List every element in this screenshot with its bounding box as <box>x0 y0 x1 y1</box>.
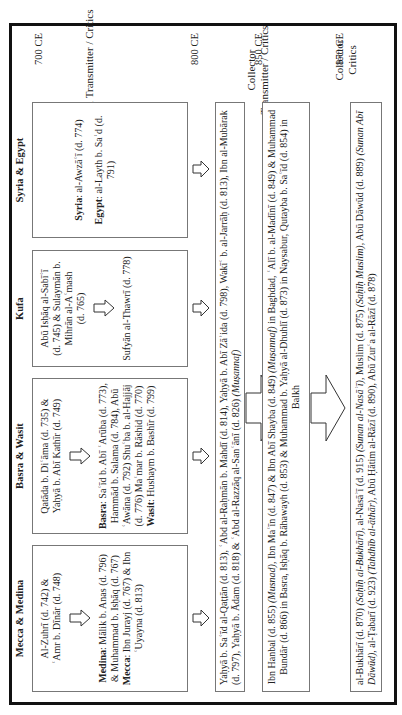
region-header-kufa: Kufa <box>14 250 25 367</box>
column-label-collector-critics: Collector Critics <box>333 25 359 95</box>
collector-transmitters-box-2: Ibn Hanbal (d. 855) (Musnad), Ibn Maʿīn … <box>262 102 310 692</box>
region-header-basra-wasit: Basra & Wasit <box>14 378 25 534</box>
region-header-mecca-medina: Mecca & Medina <box>14 545 25 692</box>
arrow-down-icon <box>69 447 91 465</box>
arrow-down-icon <box>192 609 214 627</box>
region-box-syria-egypt: Syria: al-Awzāʿī (d. 774) Egypt: al-Layt… <box>32 102 188 238</box>
arrow-down-icon <box>192 447 214 465</box>
region-header-syria-egypt: Syria & Egypt <box>14 102 25 238</box>
collector-critics-box: al-Bukhārī (d. 870) (Saḥīḥ al-Bukhārī), … <box>350 102 382 692</box>
region-box-mecca-medina: Al-Zuhrī (d. 742) & ʿAmr b. Dīnār (d. 74… <box>32 545 188 692</box>
arrow-down-icon <box>69 610 91 628</box>
era-700ce: 700 CE <box>33 19 44 79</box>
arrow-down-icon <box>93 300 115 318</box>
region-box-kufa: Abū Isḥāq al-Sabīʿī (d. 745) & Sulaymān … <box>32 250 188 367</box>
hadith-transmission-diagram: Mecca & Medina Basra & Wasit Kufa Syria … <box>0 0 402 715</box>
arrow-down-icon <box>192 299 214 317</box>
large-arrow-down-icon <box>310 373 350 443</box>
arrow-down-icon <box>192 160 214 178</box>
era-800ce: 800 CE <box>189 19 200 79</box>
collector-transmitters-box-1: Yaḥyā b. Saʿīd al-Qaṭṭān (d. 813), ʿAbd … <box>215 102 245 692</box>
region-box-basra-wasit: Qatāda b. Diʿāma (d. 735) & Yaḥyā b. Abī… <box>32 378 188 534</box>
